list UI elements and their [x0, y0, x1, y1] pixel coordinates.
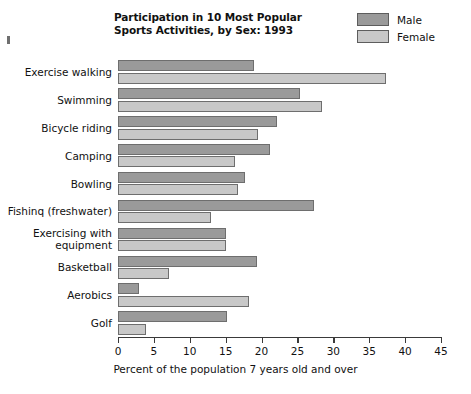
- bar-male-2: [118, 116, 277, 127]
- legend-swatch-female: [357, 30, 389, 43]
- scan-artifact: [7, 36, 14, 44]
- category-label-3: Camping: [0, 150, 112, 162]
- bar-female-6: [118, 240, 226, 251]
- x-tick-25: [297, 337, 298, 343]
- bar-male-5: [118, 200, 314, 211]
- category-label-4: Bowling: [0, 178, 112, 190]
- bar-female-9: [118, 324, 146, 335]
- legend-swatch-male: [357, 13, 389, 26]
- legend-label-male: Male: [397, 14, 422, 26]
- category-label-7: Basketball: [0, 261, 112, 273]
- category-label-5: Fishinq (freshwater): [0, 205, 112, 217]
- bar-male-4: [118, 172, 245, 183]
- category-label-2: Bicycle riding: [0, 122, 112, 134]
- x-tick-30: [333, 337, 334, 343]
- x-tick-0: [118, 337, 119, 343]
- x-tick-label-30: 30: [327, 345, 340, 357]
- bar-female-2: [118, 129, 258, 140]
- x-axis-line: [118, 337, 442, 338]
- x-tick-10: [190, 337, 191, 343]
- x-tick-35: [369, 337, 370, 343]
- plot-area: [118, 58, 441, 337]
- category-label-8: Aerobics: [0, 289, 112, 301]
- bar-male-6: [118, 228, 226, 239]
- bar-male-3: [118, 144, 270, 155]
- x-tick-45: [441, 337, 442, 343]
- bar-male-0: [118, 60, 254, 71]
- x-tick-label-45: 45: [434, 345, 447, 357]
- category-label-9: Golf: [0, 317, 112, 329]
- legend-item-female: Female: [357, 29, 435, 44]
- x-tick-label-10: 10: [183, 345, 196, 357]
- bar-female-3: [118, 156, 235, 167]
- bar-female-8: [118, 296, 249, 307]
- category-label-1: Swimming: [0, 94, 112, 106]
- bar-male-1: [118, 88, 300, 99]
- x-tick-label-35: 35: [363, 345, 376, 357]
- x-tick-label-40: 40: [398, 345, 411, 357]
- x-tick-40: [405, 337, 406, 343]
- bar-male-7: [118, 256, 257, 267]
- x-axis-title: Percent of the population 7 years old an…: [0, 363, 471, 375]
- x-tick-20: [262, 337, 263, 343]
- category-label-0: Exercise walking: [0, 66, 112, 78]
- bar-female-4: [118, 184, 238, 195]
- bar-female-0: [118, 73, 386, 84]
- x-tick-label-20: 20: [255, 345, 268, 357]
- bar-female-7: [118, 268, 169, 279]
- x-tick-label-5: 5: [151, 345, 158, 357]
- chart-title: Participation in 10 Most Popular Sports …: [114, 11, 329, 37]
- x-tick-15: [226, 337, 227, 343]
- x-tick-label-25: 25: [291, 345, 304, 357]
- bar-male-9: [118, 311, 227, 322]
- category-label-6: Exercising with equipment: [0, 227, 112, 251]
- x-tick-label-15: 15: [219, 345, 232, 357]
- bar-female-5: [118, 212, 211, 223]
- bar-female-1: [118, 101, 322, 112]
- legend-label-female: Female: [397, 31, 435, 43]
- chart-legend: Male Female: [357, 12, 435, 46]
- x-tick-label-0: 0: [115, 345, 122, 357]
- legend-item-male: Male: [357, 12, 435, 27]
- x-tick-5: [154, 337, 155, 343]
- chart-figure: Participation in 10 Most Popular Sports …: [0, 0, 471, 394]
- bar-male-8: [118, 283, 139, 294]
